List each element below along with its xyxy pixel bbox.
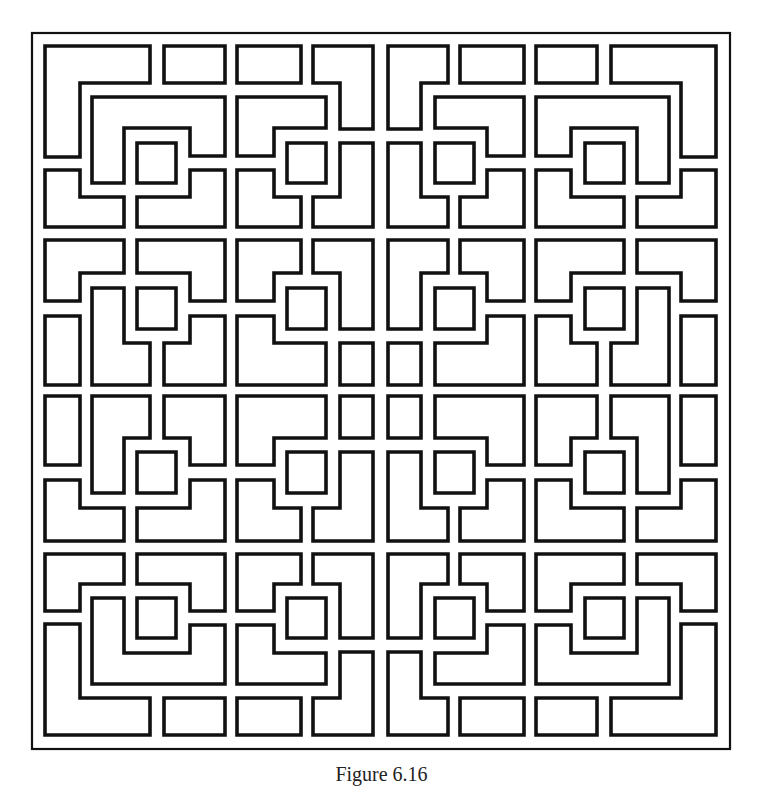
row2-left-rect — [45, 316, 80, 385]
center-square — [585, 598, 624, 638]
row2c2-small-square — [388, 343, 421, 385]
top-rect-2 — [237, 46, 301, 83]
top-rect-2 — [460, 698, 524, 735]
row2c2-center-square — [287, 288, 326, 329]
row2c2-small-square — [340, 396, 373, 438]
row2c2-small-square — [388, 396, 421, 438]
top-rect — [164, 46, 225, 83]
row2c2-center-square — [435, 288, 474, 329]
center-square-2 — [435, 143, 474, 183]
center-square — [137, 143, 176, 183]
top-rect — [164, 698, 225, 735]
row2-left-rect — [45, 396, 80, 465]
center-square-2 — [287, 598, 326, 638]
row2c2-small-square — [340, 343, 373, 385]
top-rect-2 — [237, 698, 301, 735]
top-rect — [536, 46, 597, 83]
row2-center-square — [137, 452, 176, 493]
center-square-2 — [287, 143, 326, 183]
center-square — [137, 598, 176, 638]
center-square — [585, 143, 624, 183]
figure-caption: Figure 6.16 — [0, 762, 763, 786]
top-rect-2 — [460, 46, 524, 83]
row2c2-center-square — [287, 452, 326, 493]
row2c2-center-square — [435, 452, 474, 493]
center-square-2 — [435, 598, 474, 638]
row2-left-rect — [681, 396, 716, 465]
top-rect — [536, 698, 597, 735]
row2-center-square — [585, 288, 624, 329]
row2-left-rect — [681, 316, 716, 385]
row2-center-square — [585, 452, 624, 493]
row2-center-square — [137, 288, 176, 329]
